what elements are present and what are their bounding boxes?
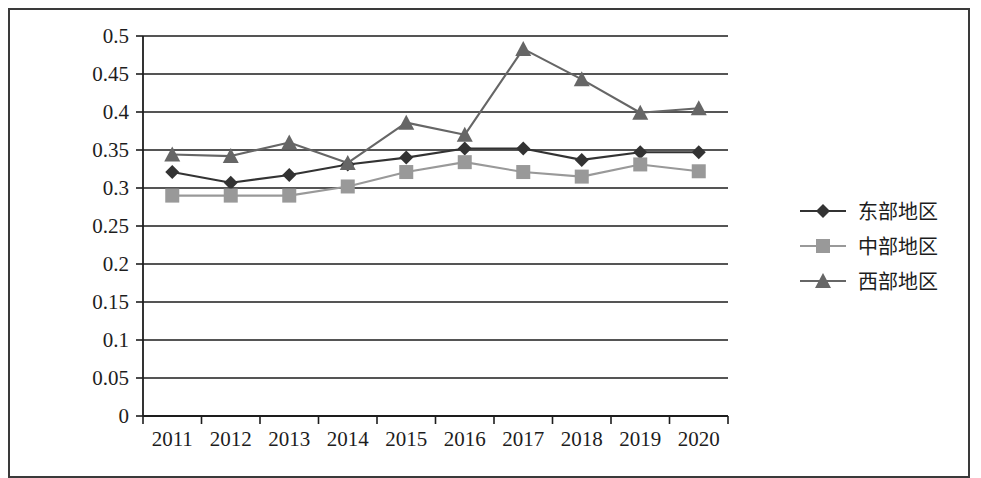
y-axis-tick-label: 0.35 [92, 138, 129, 162]
data-point-marker-diamond [692, 145, 706, 159]
x-axis-ticks [143, 416, 728, 424]
data-point-marker-square [282, 189, 296, 203]
data-point-marker-triangle [515, 41, 531, 56]
legend-item: 西部地区 [800, 270, 938, 294]
x-axis-tick-label: 2017 [502, 427, 544, 451]
x-axis-tick-label: 2016 [444, 427, 486, 451]
y-axis-tick-label: 0.1 [103, 328, 129, 352]
legend-item-label: 西部地区 [858, 270, 938, 294]
y-axis-tick-label: 0 [119, 404, 130, 428]
data-point-marker-diamond [816, 204, 830, 218]
data-point-marker-square [692, 164, 706, 178]
legend-item-label: 中部地区 [858, 235, 938, 259]
x-axis-tick-label: 2011 [152, 427, 193, 451]
y-axis-tick-label: 0.45 [92, 62, 129, 86]
legend-item-label: 东部地区 [858, 200, 938, 224]
series-line [172, 148, 699, 182]
data-point-marker-square [224, 189, 238, 203]
y-axis-tick-label: 0.25 [92, 214, 129, 238]
x-axis-tick-labels: 2011201220132014201520162017201820192020 [152, 427, 720, 451]
y-axis-tick-label: 0.5 [103, 24, 129, 48]
x-axis-tick-label: 2013 [268, 427, 310, 451]
y-axis-tick-label: 0.3 [103, 176, 129, 200]
data-point-marker-triangle [340, 155, 356, 170]
y-axis-tick-labels: 00.050.10.150.20.250.30.350.40.450.5 [92, 24, 129, 428]
chart-legend: 东部地区中部地区西部地区 [800, 200, 938, 294]
data-point-marker-square [575, 170, 589, 184]
data-series [165, 141, 706, 189]
y-axis-tick-label: 0.2 [103, 252, 129, 276]
data-point-marker-diamond [516, 141, 530, 155]
x-axis-tick-label: 2018 [561, 427, 603, 451]
data-series-group [164, 41, 707, 203]
data-point-marker-diamond [165, 165, 179, 179]
data-point-marker-square [399, 165, 413, 179]
series-line [172, 162, 699, 195]
x-axis-tick-label: 2012 [210, 427, 252, 451]
data-point-marker-square [633, 157, 647, 171]
x-axis-tick-label: 2020 [678, 427, 720, 451]
y-axis-tick-label: 0.15 [92, 290, 129, 314]
x-axis-tick-label: 2014 [327, 427, 370, 451]
legend-item: 中部地区 [800, 235, 938, 259]
data-point-marker-diamond [575, 153, 589, 167]
data-point-marker-diamond [282, 168, 296, 182]
data-point-marker-triangle [281, 134, 297, 149]
x-axis-tick-label: 2015 [385, 427, 427, 451]
y-axis-tick-label: 0.05 [92, 366, 129, 390]
data-point-marker-square [816, 239, 830, 253]
data-point-marker-square [341, 179, 355, 193]
data-point-marker-square [165, 189, 179, 203]
data-point-marker-triangle [398, 115, 414, 130]
y-axis-ticks [136, 36, 143, 416]
series-line [172, 49, 699, 163]
data-point-marker-diamond [633, 145, 647, 159]
x-axis-tick-label: 2019 [619, 427, 661, 451]
data-point-marker-square [458, 155, 472, 169]
data-point-marker-square [516, 165, 530, 179]
y-axis-tick-label: 0.4 [103, 100, 130, 124]
data-point-marker-diamond [458, 141, 472, 155]
gridlines-group [143, 36, 728, 416]
data-series [165, 155, 706, 202]
legend-item: 东部地区 [800, 200, 938, 224]
data-point-marker-diamond [399, 151, 413, 165]
